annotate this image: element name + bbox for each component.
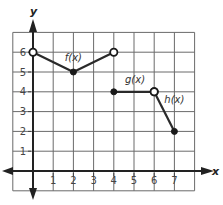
- closed-endpoint-hx: [171, 128, 177, 134]
- y-axis-up-arrow-icon: [29, 19, 37, 32]
- label-hx: h(x): [164, 94, 184, 105]
- y-tick-label: 2: [20, 126, 26, 137]
- x-tick-label: 3: [90, 175, 96, 186]
- y-tick-label: 3: [20, 106, 26, 117]
- y-tick-label: 6: [20, 47, 26, 58]
- open-endpoint-fx: [29, 49, 36, 56]
- label-gx: g(x): [125, 74, 145, 85]
- y-axis-down-arrow-icon: [29, 188, 37, 200]
- closed-endpoint-gx: [111, 89, 117, 95]
- y-tick-label: 5: [20, 67, 26, 78]
- y-tick-label: 1: [20, 146, 26, 157]
- closed-endpoint-fx: [70, 69, 76, 75]
- x-axis-title: x: [211, 165, 220, 178]
- open-endpoint-fx: [110, 49, 117, 56]
- x-tick-label: 1: [50, 175, 56, 186]
- label-fx: f(x): [65, 52, 82, 63]
- y-axis-title: y: [30, 5, 38, 18]
- x-tick-label: 2: [70, 175, 76, 186]
- x-tick-label: 4: [111, 175, 117, 186]
- piecewise-function-graph: 1234567123456 f(x)g(x)h(x) x y: [0, 0, 223, 205]
- axes: [2, 19, 214, 200]
- function-labels: f(x)g(x)h(x): [65, 52, 185, 105]
- x-tick-label: 5: [131, 175, 137, 186]
- x-axis-left-arrow-icon: [2, 167, 13, 175]
- y-tick-label: 4: [20, 86, 26, 97]
- x-tick-label: 7: [171, 175, 177, 186]
- open-endpoint-hx: [151, 88, 158, 95]
- x-tick-label: 6: [151, 175, 157, 186]
